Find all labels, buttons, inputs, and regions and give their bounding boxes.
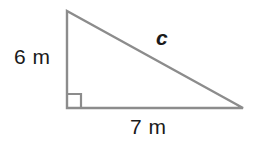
triangle-outline: [67, 11, 243, 108]
hypotenuse-label: c: [156, 27, 168, 48]
triangle-diagram: 6 m 7 m c: [0, 0, 258, 151]
right-triangle-shape: [67, 11, 243, 108]
triangle-graphic: [0, 0, 258, 151]
right-angle-marker-icon: [67, 94, 81, 108]
vertical-leg-label: 6 m: [14, 46, 51, 67]
horizontal-leg-label: 7 m: [130, 116, 167, 137]
